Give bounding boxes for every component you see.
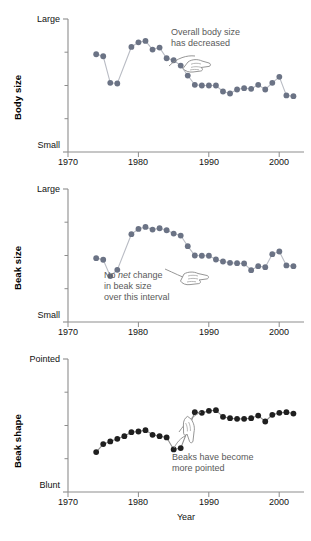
data-point [276, 249, 282, 255]
x-tick-1990-beakshape: 1990 [199, 497, 219, 507]
data-point [248, 415, 254, 421]
data-point [206, 408, 212, 414]
chart-panel-beak-size: Beak size Large Small 1970 1980 1990 200… [0, 170, 311, 340]
pointing-hand-icon [167, 52, 213, 78]
data-point [213, 257, 219, 263]
data-point [234, 260, 240, 266]
data-point [283, 93, 289, 99]
data-point [241, 416, 247, 422]
data-point [262, 419, 268, 425]
data-point [178, 233, 184, 239]
data-point [143, 38, 149, 44]
data-point [143, 427, 149, 433]
data-point [192, 82, 198, 88]
data-point [248, 86, 254, 92]
data-point [107, 80, 113, 86]
plot-area-body-size [0, 0, 311, 170]
data-point [241, 85, 247, 91]
x-tick-2000-beakshape: 2000 [269, 497, 289, 507]
annotation-beak-size-line2: in beak size [104, 281, 152, 293]
data-point [157, 433, 163, 439]
data-point [199, 253, 205, 259]
data-point [276, 410, 282, 416]
data-point [213, 83, 219, 89]
data-point [192, 253, 198, 259]
data-point [269, 80, 275, 86]
annotation-beak-size-part-b: change [131, 270, 163, 280]
data-point [93, 255, 99, 261]
data-point [283, 409, 289, 415]
data-point [164, 227, 170, 233]
data-point [269, 412, 275, 418]
annotation-body-size-line2: has decreased [171, 38, 230, 50]
axes-beak-size [63, 189, 304, 327]
data-point [206, 253, 212, 259]
data-point [262, 264, 268, 270]
data-point [269, 251, 275, 257]
data-point [100, 257, 106, 263]
x-tick-2000-body: 2000 [269, 157, 289, 167]
data-point [129, 44, 135, 50]
data-point [262, 87, 268, 93]
annotation-beak-size-line3: over this interval [104, 292, 170, 304]
x-axis-title: Year [177, 512, 195, 522]
x-tick-1980-body: 1980 [128, 157, 148, 167]
x-tick-1980-beaksize: 1980 [128, 327, 148, 337]
chart-panel-beak-shape: Beak shape Pointed Blunt 1970 1980 1990 … [0, 340, 311, 525]
data-point [234, 416, 240, 422]
annotation-beak-shape-line2: more pointed [172, 463, 225, 475]
chart-panel-body-size: Body size Large Small 1970 1980 1990 200… [0, 0, 311, 170]
data-point [93, 449, 99, 455]
x-tick-2000-beaksize: 2000 [269, 327, 289, 337]
data-point [136, 39, 142, 45]
finch-evolution-figure: Body size Large Small 1970 1980 1990 200… [0, 0, 311, 541]
data-point [283, 263, 289, 269]
data-point [93, 51, 99, 57]
pointing-hand-icon [164, 266, 212, 290]
data-point [227, 260, 233, 266]
data-point [255, 263, 261, 269]
data-point [150, 432, 156, 438]
data-point [114, 81, 120, 87]
data-point [136, 429, 142, 435]
data-point [114, 436, 120, 442]
plot-area-beak-size [0, 170, 311, 340]
data-point [227, 91, 233, 97]
data-point [220, 414, 226, 420]
data-point [185, 243, 191, 249]
data-point [206, 83, 212, 89]
data-point [291, 411, 297, 417]
data-point [171, 231, 177, 237]
x-tick-1970-body: 1970 [58, 157, 78, 167]
data-point [255, 413, 261, 419]
data-point [150, 47, 156, 53]
data-point [227, 415, 233, 421]
data-point [143, 224, 149, 230]
pointing-hand-icon [163, 410, 205, 456]
data-point [220, 89, 226, 95]
annotation-body-size-line1: Overall body size [171, 27, 240, 39]
annotation-beak-size-part-a: No [104, 270, 118, 280]
x-tick-1990-beaksize: 1990 [199, 327, 219, 337]
data-point [150, 227, 156, 233]
x-tick-1980-beakshape: 1980 [128, 497, 148, 507]
data-point [276, 74, 282, 80]
data-point [129, 429, 135, 435]
data-point [100, 441, 106, 447]
data-point [129, 231, 135, 237]
x-tick-1970-beakshape: 1970 [58, 497, 78, 507]
annotation-beak-size-emphasis: net [118, 270, 131, 280]
data-point [213, 407, 219, 413]
data-point [157, 225, 163, 231]
data-point [121, 433, 127, 439]
annotation-beak-size-line1: No net change [104, 270, 163, 282]
data-point [291, 263, 297, 269]
data-point [220, 259, 226, 265]
data-point [100, 53, 106, 59]
data-point [248, 267, 254, 273]
data-point [234, 87, 240, 93]
x-tick-1990-body: 1990 [199, 157, 219, 167]
data-point [157, 45, 163, 51]
data-point [199, 83, 205, 89]
data-point [255, 82, 261, 88]
